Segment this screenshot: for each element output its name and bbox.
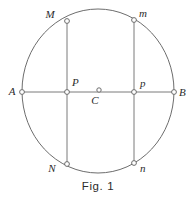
point-label-N: N xyxy=(47,162,56,174)
point-marker-P xyxy=(65,90,70,95)
circle-diagram: M m A P C p B N n Fig. 1 xyxy=(0,0,196,200)
point-marker-C xyxy=(97,88,101,92)
point-marker-M xyxy=(65,19,70,24)
point-label-M: M xyxy=(44,8,55,20)
point-marker-B xyxy=(172,90,177,95)
point-marker-N xyxy=(65,162,70,167)
point-label-p: p xyxy=(139,77,146,89)
point-label-P: P xyxy=(71,76,79,88)
point-marker-m xyxy=(132,18,137,23)
point-label-A: A xyxy=(8,85,16,97)
point-marker-A xyxy=(20,90,25,95)
figure-caption: Fig. 1 xyxy=(82,180,114,192)
point-label-n: n xyxy=(140,162,146,174)
point-marker-n xyxy=(132,161,137,166)
point-marker-p xyxy=(132,90,137,95)
point-label-B: B xyxy=(179,86,186,98)
point-label-C: C xyxy=(91,94,99,106)
point-label-m: m xyxy=(139,7,147,19)
figure-container: M m A P C p B N n Fig. 1 xyxy=(0,0,196,200)
